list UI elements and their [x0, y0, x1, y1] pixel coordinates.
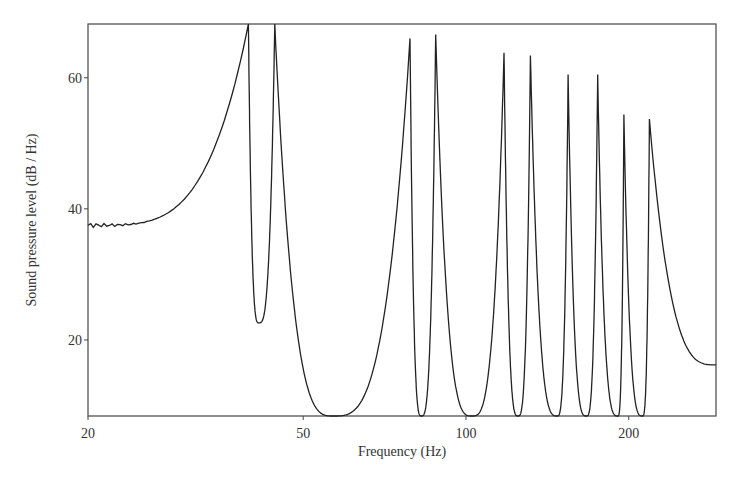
plot-area — [88, 24, 716, 416]
x-tick-label: 200 — [618, 426, 639, 441]
x-axis-title: Frequency (Hz) — [358, 444, 447, 460]
x-tick-label: 50 — [296, 426, 310, 441]
x-tick-label: 100 — [455, 426, 476, 441]
y-axis-title: Sound pressure level (dB / Hz) — [24, 133, 40, 306]
y-tick-label: 40 — [68, 202, 82, 217]
y-tick-label: 20 — [68, 333, 82, 348]
x-tick-label: 20 — [81, 426, 95, 441]
chart: 2050100200204060 Frequency (Hz) Sound pr… — [0, 0, 737, 481]
y-tick-label: 60 — [68, 71, 82, 86]
axes: 2050100200204060 — [68, 24, 716, 441]
series-line-spl — [88, 24, 716, 416]
